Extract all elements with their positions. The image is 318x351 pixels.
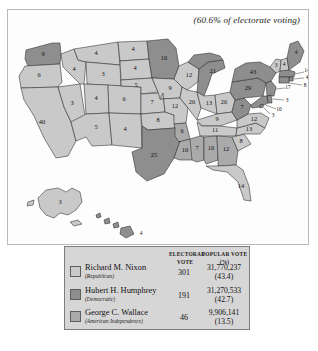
label-NY: 43: [250, 68, 256, 75]
legend-swatch-nixon: [70, 266, 81, 277]
state-AK-isl2[interactable]: [70, 220, 82, 226]
leader-line-dc: [263, 107, 270, 114]
label-HI: 4: [140, 230, 143, 236]
state-MA[interactable]: [279, 70, 295, 77]
label-CO: 6: [122, 95, 125, 102]
label-CA: 40: [39, 118, 45, 125]
label-NC: 13: [246, 125, 252, 132]
label-SC: 8: [239, 137, 242, 144]
label-NH: 4: [283, 61, 286, 67]
label-IN: 13: [206, 99, 212, 106]
label-FL: 14: [238, 182, 245, 189]
label-WY: 3: [101, 70, 104, 77]
election-map-figure: (60.6% of electorate voting): [0, 0, 318, 351]
map-frame: (60.6% of electorate voting): [7, 9, 309, 245]
leader-line-de: [272, 99, 284, 100]
label-OH: 26: [221, 98, 227, 105]
legend-party-humphrey: (Democratic): [85, 296, 171, 303]
label-NV: 3: [70, 99, 73, 106]
state-CT[interactable]: [279, 77, 289, 83]
legend-candidate-humphrey: Hubert H. Humphrey (Democratic): [85, 286, 171, 303]
label-OK: 8: [156, 116, 159, 123]
label-NE: 5: [134, 81, 137, 88]
legend-swatch-wallace: [70, 311, 81, 322]
legend-swatch-humphrey: [70, 289, 81, 300]
state-DC[interactable]: [260, 104, 263, 108]
legend-header-popular-line1: POPULAR VOTE: [201, 250, 248, 258]
label-IA: 9: [168, 84, 171, 91]
legend-row-nixon[interactable]: Richard M. Nixon (Republican) 301 31,770…: [65, 264, 249, 286]
label-DC: 3: [272, 112, 275, 118]
label-OR: 6: [37, 71, 40, 78]
legend-electoral-wallace: 46: [169, 313, 199, 322]
label-WI: 12: [186, 71, 192, 78]
label-LA: 10: [182, 146, 188, 153]
state-HI-2[interactable]: [104, 218, 110, 224]
label-RI: 4: [306, 74, 308, 80]
legend-header-electoral-line1: ELECTORAL: [169, 250, 201, 258]
legend-popular-votes-nixon: 31,770,237: [199, 263, 249, 272]
label-DE: 3: [286, 97, 289, 103]
label-GA: 12: [223, 145, 229, 152]
legend-popular-votes-wallace: 9,906,141: [199, 308, 249, 317]
label-TX: 25: [151, 151, 157, 158]
label-PA: 29: [245, 84, 251, 91]
state-HI-3[interactable]: [113, 222, 119, 228]
label-AK: 3: [58, 198, 61, 205]
state-HI-1[interactable]: [96, 213, 101, 218]
us-election-map: 9 6 40 3 4 4 3 4 5 6 4 4 4 5 7 8 25 10 9…: [8, 10, 308, 244]
legend-popular-pct-wallace: (13.5): [199, 317, 249, 326]
label-AZ: 5: [94, 123, 97, 130]
leader-line-md: [266, 105, 276, 109]
legend-popular-wallace: 9,906,141 (13.5): [199, 308, 249, 327]
label-MO: 12: [172, 102, 178, 109]
legend-electoral-humphrey: 191: [169, 291, 199, 300]
legend-row-humphrey[interactable]: Hubert H. Humphrey (Democratic) 191 31,2…: [65, 287, 249, 309]
legend-name-nixon: Richard M. Nixon: [85, 263, 171, 273]
legend-candidate-nixon: Richard M. Nixon (Republican): [85, 263, 171, 280]
label-CT: 8: [304, 82, 307, 88]
label-KY: 9: [215, 115, 218, 122]
legend-popular-pct-humphrey: (42.7): [199, 295, 249, 304]
label-WA: 9: [41, 50, 44, 57]
legend-name-humphrey: Hubert H. Humphrey: [85, 286, 171, 296]
state-MD[interactable]: [251, 96, 268, 108]
leader-line-nj: [276, 88, 285, 89]
legend-popular-pct-nixon: (43.4): [199, 272, 249, 281]
legend-popular-nixon: 31,770,237 (43.4): [199, 263, 249, 282]
state-FL[interactable]: [206, 165, 251, 201]
label-NJ: 17: [285, 84, 291, 90]
legend-row-wallace[interactable]: George C. Wallace (American Independence…: [65, 309, 249, 331]
legend-popular-humphrey: 31,270,533 (42.7): [199, 286, 249, 305]
legend-name-wallace: George C. Wallace: [85, 308, 171, 318]
leader-line-ct: [289, 83, 302, 85]
label-TN: 11: [212, 126, 218, 133]
label-MD: 10: [276, 106, 282, 112]
label-MA: 14: [304, 67, 308, 73]
state-HI-4[interactable]: [120, 226, 134, 238]
state-ME[interactable]: [287, 41, 304, 70]
state-AK-isl1[interactable]: [27, 200, 34, 206]
state-RI[interactable]: [289, 77, 293, 81]
label-MN: 10: [161, 54, 167, 61]
label-AL: 10: [208, 144, 214, 151]
leader-line-ma: [295, 72, 304, 74]
legend-electoral-nixon: 301: [169, 268, 199, 277]
label-AR: 6: [180, 127, 183, 134]
leader-line-ri: [293, 78, 304, 79]
label-VT: 3: [275, 62, 278, 68]
legend-panel: ELECTORAL VOTE POPULAR VOTE (%) Richard …: [64, 246, 250, 330]
legend-party-nixon: (Republican): [85, 273, 171, 280]
legend-popular-votes-humphrey: 31,270,533: [199, 286, 249, 295]
label-MI: 21: [210, 67, 216, 74]
state-NJ[interactable]: [266, 81, 276, 96]
label-VA: 12: [251, 115, 257, 122]
label-ME: 4: [295, 49, 298, 55]
legend-candidate-wallace: George C. Wallace (American Independence…: [85, 308, 171, 325]
legend-party-wallace: (American Independence): [85, 318, 171, 325]
label-IL: 26: [189, 98, 195, 105]
